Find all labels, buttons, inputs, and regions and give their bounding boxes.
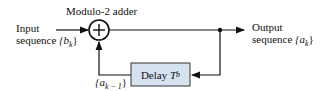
delay-to-adder-arrow xyxy=(99,42,131,75)
input-label-line2: sequence {bk} xyxy=(16,34,78,51)
feedback-to-delay-arrow xyxy=(192,30,220,75)
output-label-line2: sequence {ak} xyxy=(252,33,314,50)
delay-label: Delay Tb xyxy=(131,63,190,86)
feedback-label: {ak − 1} xyxy=(95,76,127,91)
input-label-line1: Input xyxy=(16,22,39,34)
output-label-line1: Output xyxy=(252,21,283,33)
adder-label: Modulo-2 adder xyxy=(66,5,137,17)
